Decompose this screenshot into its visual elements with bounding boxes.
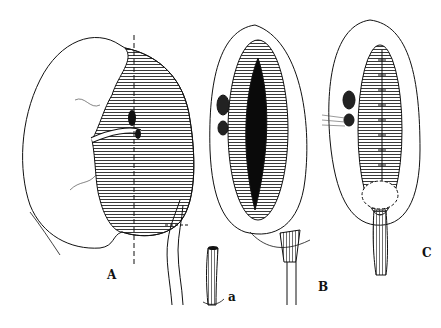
panel-c-sutured-pelvis [322,20,420,275]
surgical-illustration: A a B C [0,0,441,328]
label-panel-a: a [228,290,236,304]
panel-b-opened-pelvis [210,25,310,305]
panel-a-small-ureter [203,246,224,305]
label-panel-C: C [422,246,432,260]
label-panel-A: A [107,268,116,282]
illustration-drawing [0,0,441,328]
label-panel-B: B [318,280,328,294]
panel-a-kidney [23,35,194,305]
